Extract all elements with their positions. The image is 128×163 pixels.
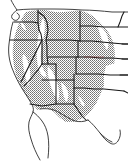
map-figure: Shaded area Unshaded area [0, 0, 128, 163]
western-us-map-svg: Shaded area Unshaded area [0, 0, 128, 163]
